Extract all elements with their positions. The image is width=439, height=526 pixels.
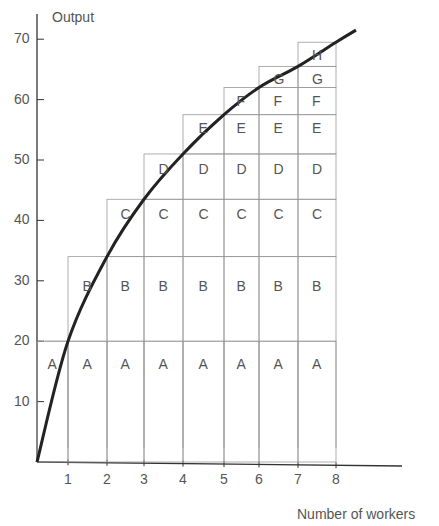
block-label: F <box>274 94 283 108</box>
block-label: A <box>237 357 246 371</box>
x-tick-label: 5 <box>220 472 228 486</box>
production-chart <box>0 0 439 526</box>
block-label: B <box>237 279 246 293</box>
x-axis-line <box>37 462 402 466</box>
block-label: B <box>199 279 208 293</box>
y-axis-title: Output <box>52 10 94 24</box>
block-label: D <box>312 162 322 176</box>
block-label: E <box>199 121 208 135</box>
block-label: B <box>121 279 130 293</box>
block-label: A <box>83 357 92 371</box>
x-tick-label: 3 <box>140 472 148 486</box>
block-label: A <box>274 357 283 371</box>
block-label: E <box>274 121 283 135</box>
block-label: A <box>199 357 208 371</box>
total-output-curve <box>37 30 356 462</box>
block-label: A <box>48 357 57 371</box>
block-label: G <box>312 72 323 86</box>
x-tick-label: 8 <box>332 472 340 486</box>
y-tick-label: 60 <box>14 92 30 106</box>
x-tick-label: 4 <box>179 472 187 486</box>
block-label: C <box>274 207 284 221</box>
y-tick-label: 70 <box>14 31 30 45</box>
y-tick-label: 50 <box>14 152 30 166</box>
marginal-block-cell <box>183 257 224 342</box>
y-tick-label: 20 <box>14 333 30 347</box>
block-label: D <box>274 162 284 176</box>
block-label: B <box>83 279 92 293</box>
block-label: A <box>312 357 321 371</box>
x-axis-title: Number of workers <box>297 507 415 521</box>
block-label: C <box>159 207 169 221</box>
block-label: H <box>312 48 322 62</box>
marginal-block-cell <box>298 257 336 342</box>
x-tick-label: 2 <box>103 472 111 486</box>
block-label: E <box>312 121 321 135</box>
x-tick-label: 7 <box>294 472 302 486</box>
marginal-block-cell <box>224 257 259 342</box>
x-tick-label: 1 <box>64 472 72 486</box>
y-tick-label: 30 <box>14 273 30 287</box>
block-label: B <box>159 279 168 293</box>
block-label: B <box>274 279 283 293</box>
block-label: C <box>199 207 209 221</box>
block-label: D <box>159 162 169 176</box>
block-label: G <box>274 72 285 86</box>
marginal-block-cell <box>107 257 144 342</box>
block-label: C <box>312 207 322 221</box>
block-label: F <box>312 94 321 108</box>
block-label: D <box>237 162 247 176</box>
block-label: F <box>237 94 246 108</box>
y-tick-label: 10 <box>14 394 30 408</box>
marginal-block-cell <box>259 257 298 342</box>
marginal-block-cell <box>144 257 183 342</box>
x-tick-label: 6 <box>255 472 263 486</box>
y-tick-label: 40 <box>14 212 30 226</box>
block-label: E <box>237 121 246 135</box>
block-label: A <box>121 357 130 371</box>
block-label: A <box>159 357 168 371</box>
block-label: C <box>121 207 131 221</box>
block-label: C <box>237 207 247 221</box>
block-label: D <box>199 162 209 176</box>
block-label: B <box>312 279 321 293</box>
